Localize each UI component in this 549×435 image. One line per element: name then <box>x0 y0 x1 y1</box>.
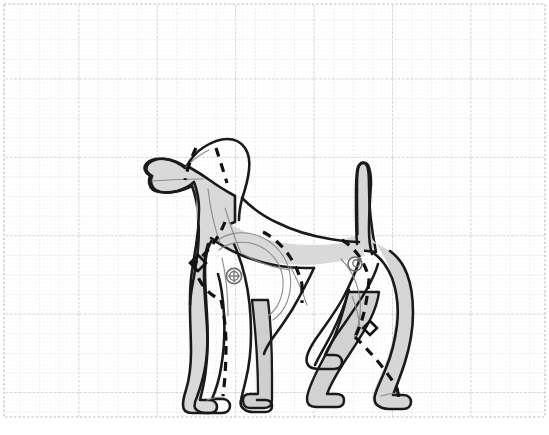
shoulder-joint-marker <box>226 268 241 283</box>
dog-body-group <box>145 139 414 413</box>
hind-upper-front-outline <box>264 268 314 354</box>
ear-dash-right <box>216 148 227 183</box>
diagram-canvas <box>0 0 549 435</box>
dog-side-view-figure <box>0 0 549 435</box>
dog-silhouette <box>146 159 414 413</box>
hip-joint-marker <box>348 257 362 271</box>
back-outline <box>242 198 359 242</box>
